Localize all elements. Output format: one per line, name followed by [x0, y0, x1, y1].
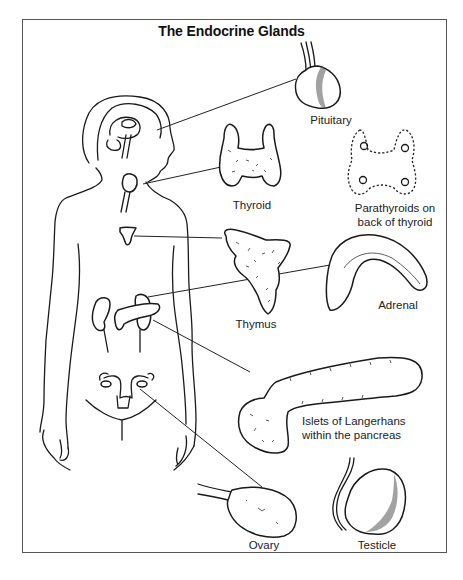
label-pancreas: Islets of Langerhans within the pancreas	[302, 414, 426, 442]
endocrine-illustration	[0, 0, 463, 580]
label-pituitary: Pituitary	[291, 113, 371, 127]
label-testicle: Testicle	[342, 538, 412, 552]
abdomen-organs	[92, 294, 159, 352]
neck-thyroid	[121, 174, 137, 212]
testicle-gland	[333, 458, 405, 534]
label-thymus: Thymus	[216, 317, 296, 331]
label-adrenal: Adrenal	[358, 298, 438, 312]
human-body-outline	[40, 96, 196, 470]
uterus-ovaries	[100, 373, 154, 408]
label-parathyroids: Parathyroids on back of thyroid	[340, 201, 450, 229]
ovary-gland	[198, 484, 296, 537]
chest-thymus	[120, 227, 136, 245]
thyroid-gland	[219, 124, 280, 186]
pituitary-gland	[295, 42, 340, 108]
label-parathyroids-line1: Parathyroids on	[340, 201, 450, 215]
thymus-gland	[225, 229, 290, 314]
label-thyroid: Thyroid	[212, 198, 292, 212]
parathyroids-diagram	[348, 130, 415, 194]
label-ovary: Ovary	[234, 538, 294, 552]
label-parathyroids-line2: back of thyroid	[340, 215, 450, 229]
label-pancreas-line1: Islets of Langerhans	[302, 414, 426, 428]
label-pancreas-line2: within the pancreas	[302, 428, 426, 442]
